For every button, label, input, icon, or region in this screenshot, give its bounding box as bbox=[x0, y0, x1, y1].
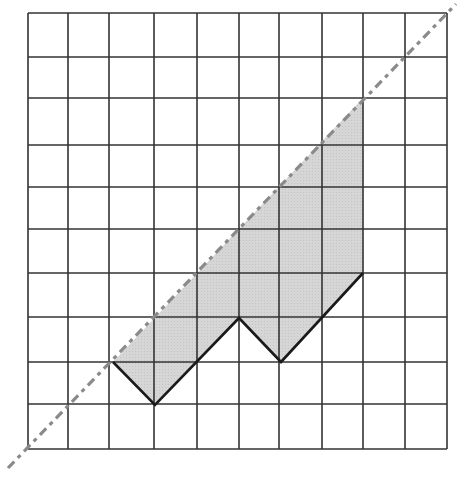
shaded-region bbox=[113, 98, 363, 405]
grid-diagram bbox=[0, 0, 468, 483]
diagonal-dashdot-line bbox=[8, 4, 456, 468]
